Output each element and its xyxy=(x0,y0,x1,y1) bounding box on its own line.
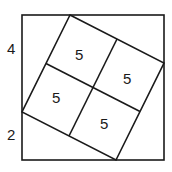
cell-label-bottom: 5 xyxy=(100,115,108,132)
side-label-2: 2 xyxy=(7,126,15,143)
cell-label-left: 5 xyxy=(52,89,60,106)
diagram-canvas: 4 2 5 5 5 5 xyxy=(0,0,172,172)
cell-label-top: 5 xyxy=(75,46,83,63)
side-label-4: 4 xyxy=(7,40,15,57)
cell-label-right: 5 xyxy=(123,70,131,87)
